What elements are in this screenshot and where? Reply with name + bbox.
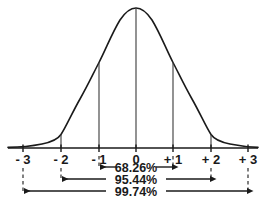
ordinate-lines — [61, 9, 211, 149]
axis-label-plus2: + 2 — [202, 152, 220, 167]
normal-curve-diagram: - 3 - 2 - 1 0 + 1 + 2 + 3 68.26% 9 — [0, 0, 263, 201]
axis-label-plus3: + 3 — [239, 152, 257, 167]
axis-label-minus3: - 3 — [15, 152, 30, 167]
figure-canvas: - 3 - 2 - 1 0 + 1 + 2 + 3 68.26% 9 — [0, 0, 263, 201]
interval-99-label: 99.74% — [115, 185, 157, 199]
interval-99: 99.74% — [24, 185, 247, 199]
bell-curve — [8, 8, 258, 147]
axis-label-minus2: - 2 — [53, 152, 68, 167]
